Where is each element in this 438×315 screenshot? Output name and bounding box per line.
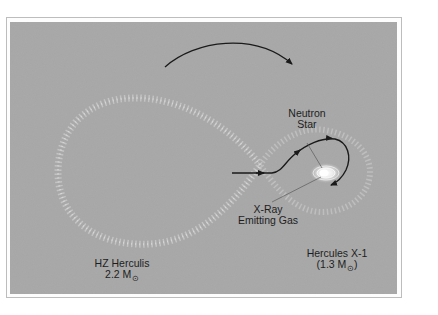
hercules-x1-label: Hercules X-1 (1.3 M⊙) [292,248,382,274]
xray-gas-label-line2: Emitting Gas [228,215,308,226]
hz-herculis-label: HZ Herculis 2.2 M⊙ [82,258,162,284]
hz-herculis-mass: 2.2 M⊙ [82,269,162,284]
xray-gas-label: X-Ray Emitting Gas [228,204,308,226]
neutron-star-label-line2: Star [272,119,342,130]
sun-symbol-icon: ⊙ [347,263,354,274]
hercules-x1-mass-value: (1.3 M [317,258,347,270]
binary-system-diagram: Neutron Star X-Ray Emitting Gas HZ Hercu… [10,22,397,294]
neutron-star-label: Neutron Star [272,108,342,130]
stream-midarrow-3 [327,138,332,139]
sun-symbol-icon: ⊙ [132,273,139,284]
hercules-x1-mass-close: ) [354,258,358,270]
hercules-x1-mass: (1.3 M⊙) [292,259,382,274]
hz-herculis-mass-value: 2.2 M [105,268,131,280]
